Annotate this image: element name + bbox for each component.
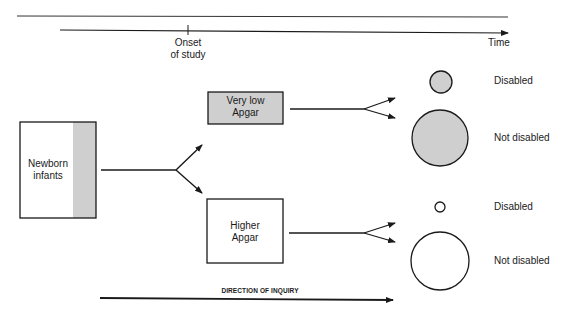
direction-arrow: [100, 298, 393, 300]
very-low-line1: Very low: [208, 95, 283, 107]
very-low-disabled-circle: [430, 71, 452, 93]
direction-of-inquiry-label: DIRECTION OF INQUIRY: [200, 285, 320, 297]
newborn-line2: infants: [20, 170, 76, 182]
onset-label-line2: of study: [168, 49, 208, 61]
outcome-label-very-low-disabled: Disabled: [494, 75, 533, 87]
onset-label-line1: Onset: [168, 37, 208, 49]
higher-disabled-circle: [435, 202, 445, 212]
very-low-apgar-label: Very low Apgar: [208, 95, 283, 119]
higher-line1: Higher: [207, 220, 283, 232]
higher-line2: Apgar: [207, 232, 283, 244]
newborn-line1: Newborn: [20, 158, 76, 170]
very-low-line2: Apgar: [208, 107, 283, 119]
higher-apgar-label: Higher Apgar: [207, 220, 283, 244]
very-low-not-disabled-circle: [412, 110, 468, 166]
outcome-label-higher-disabled: Disabled: [494, 201, 533, 213]
top-rule: [17, 16, 508, 17]
outcome-label-very-low-not-disabled: Not disabled: [494, 132, 550, 144]
time-label: Time: [484, 37, 514, 49]
newborn-label: Newborn infants: [20, 158, 76, 182]
onset-label: Onset of study: [168, 37, 208, 61]
time-axis: [60, 30, 508, 33]
outcome-label-higher-not-disabled: Not disabled: [494, 255, 550, 267]
higher-not-disabled-circle: [411, 232, 469, 290]
